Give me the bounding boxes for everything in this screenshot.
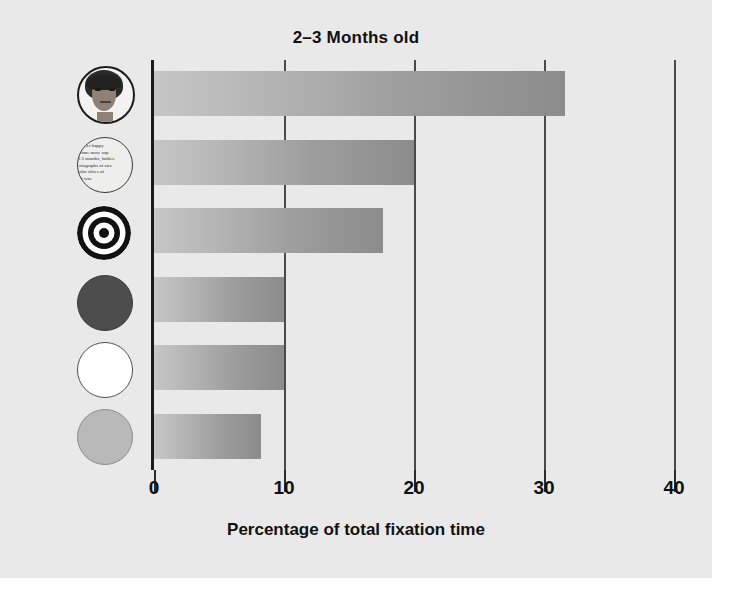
bullseye-center: [99, 228, 109, 238]
plot-area: [154, 60, 674, 470]
face-mouth: [100, 101, 111, 103]
figure-panel: 2–3 Months old Disks prefer happy come m…: [0, 0, 712, 578]
face-left-eye: [95, 88, 101, 91]
bar-yellow-disk: [154, 414, 261, 459]
bar-print: [154, 140, 414, 185]
white-disk-icon: [77, 342, 133, 398]
bar-white-disk: [154, 345, 284, 390]
chart-title: 2–3 Months old: [0, 28, 712, 48]
bar-face: [154, 71, 565, 116]
printed-text-lines: prefer happy come more sop t 3 months, b…: [77, 143, 133, 183]
printed-text-disk-icon: prefer happy come more sop t 3 months, b…: [77, 137, 133, 193]
bar-bullseye: [154, 208, 383, 253]
x-tick-label-20: 20: [403, 477, 424, 499]
y-axis-title: Disks: [0, 214, 4, 265]
x-tick-label-0: 0: [149, 477, 160, 499]
bullseye-disk-icon: [77, 206, 131, 260]
face-right-eye: [109, 88, 115, 91]
face-neck-shape: [97, 112, 113, 122]
gridline-30: [544, 60, 546, 470]
bar-red-disk: [154, 277, 284, 322]
y-axis-line: [151, 60, 154, 470]
gridline-20: [414, 60, 416, 470]
yellow-disk-icon: [77, 409, 133, 465]
red-disk-icon: [77, 275, 133, 331]
gridline-40: [674, 60, 676, 470]
x-axis-title: Percentage of total fixation time: [0, 520, 712, 540]
face-disk-icon: [77, 66, 135, 124]
gridline-10: [284, 60, 286, 470]
x-tick-label-30: 30: [533, 477, 554, 499]
face-fringe-shape: [87, 74, 121, 90]
x-tick-label-10: 10: [273, 477, 294, 499]
x-tick-label-40: 40: [663, 477, 684, 499]
